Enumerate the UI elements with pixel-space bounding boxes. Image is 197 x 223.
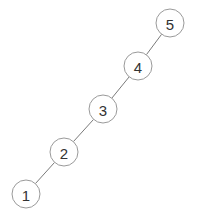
edge-5-4	[146, 34, 161, 55]
edge-3-2	[73, 119, 93, 141]
tree-node-3: 3	[89, 95, 117, 123]
node-label: 3	[99, 102, 107, 119]
node-label: 5	[166, 16, 174, 33]
node-label: 4	[134, 59, 142, 76]
tree-node-1: 1	[12, 180, 40, 208]
tree-node-4: 4	[124, 52, 152, 80]
tree-diagram: 12345	[0, 0, 197, 223]
edge-2-1	[35, 162, 54, 183]
tree-node-2: 2	[50, 138, 78, 166]
node-label: 1	[22, 187, 30, 204]
tree-node-5: 5	[156, 9, 184, 37]
edge-4-3	[112, 77, 129, 98]
node-label: 2	[60, 145, 68, 162]
